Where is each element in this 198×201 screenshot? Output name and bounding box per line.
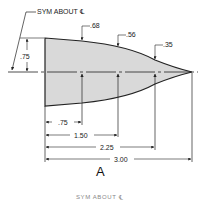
- sym-leader: [12, 12, 36, 70]
- dim-label: 1.50: [74, 132, 88, 139]
- bottom-caption: SYM ABOUT ℄: [76, 194, 123, 200]
- leader-056: [118, 35, 126, 46]
- dim-label: 2.25: [100, 144, 114, 151]
- dim-label: .75: [58, 119, 68, 126]
- half-height-label: .75: [20, 53, 30, 60]
- figure-label: A: [96, 164, 105, 179]
- height-label: .56: [126, 31, 136, 38]
- height-label: .68: [90, 22, 100, 29]
- ogive-drawing: SYM ABOUT ℄ .75 .68 .56 .35 .75 1.50 2.2…: [0, 0, 198, 201]
- dim-label: 3.00: [114, 156, 128, 163]
- height-label: .35: [163, 41, 173, 48]
- leader-035: [155, 45, 163, 59]
- leader-068: [82, 26, 90, 40]
- sym-note: SYM ABOUT ℄: [37, 8, 85, 15]
